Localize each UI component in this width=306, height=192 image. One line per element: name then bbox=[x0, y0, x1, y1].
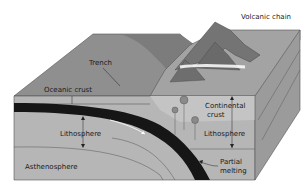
label-trench: Trench bbox=[89, 59, 112, 67]
label-continental-crust-1: Continental bbox=[205, 102, 245, 110]
subduction-diagram: Volcanic chain Trench Oceanic crust Cont… bbox=[0, 0, 306, 192]
label-lithosphere-right: Lithosphere bbox=[204, 130, 245, 138]
label-asthenosphere: Asthenosphere bbox=[25, 163, 78, 171]
label-lithosphere-left: Lithosphere bbox=[60, 130, 101, 138]
label-volcanic-chain: Volcanic chain bbox=[241, 13, 291, 21]
label-oceanic-crust: Oceanic crust bbox=[44, 86, 92, 94]
label-partial-melting-2: melting bbox=[220, 167, 247, 175]
volcanic-plume bbox=[180, 65, 245, 67]
label-partial-melting-1: Partial bbox=[220, 158, 242, 166]
label-continental-crust-2: crust bbox=[207, 111, 225, 119]
